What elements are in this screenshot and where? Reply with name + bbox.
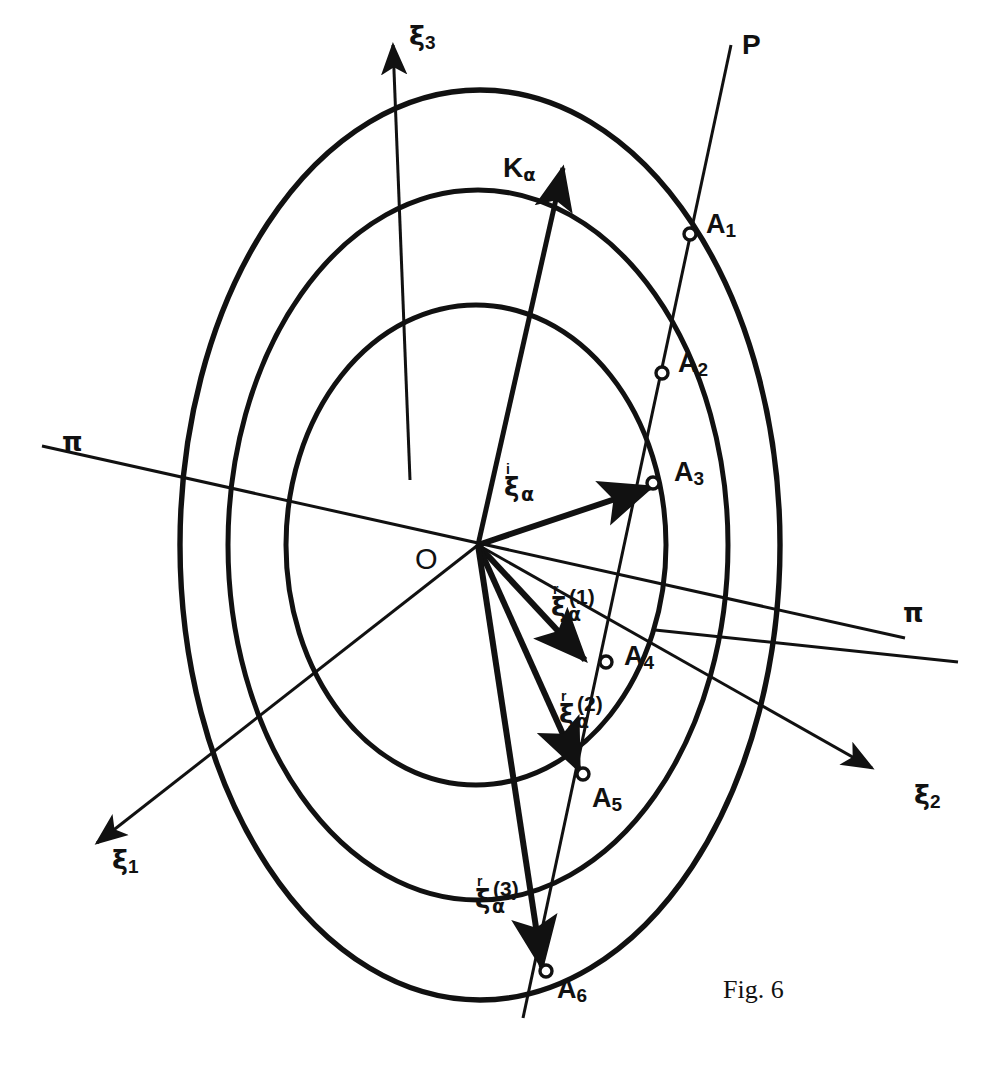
vector-label-K-alpha: Kα [503, 154, 536, 184]
point-label-A1: A1 [706, 211, 736, 240]
point-label-A4-letter: A [624, 641, 644, 671]
point-label-A4: A4 [624, 643, 654, 672]
marker-A5 [577, 768, 589, 780]
vector-label-reflected-2-index: (2) [577, 693, 603, 714]
ray-P-line [523, 45, 731, 1018]
plane-label-pi-right: π [903, 600, 924, 626]
point-label-A3: A3 [674, 459, 704, 488]
point-label-A4-sub: 4 [644, 652, 655, 673]
axis-xi2-line [478, 545, 872, 768]
figure-caption: Fig. 6 [723, 977, 784, 1003]
plane-label-pi-left: π [62, 429, 83, 455]
point-label-A1-letter: A [706, 209, 726, 239]
vector-label-incident-sub: α [521, 485, 534, 504]
vector-label-reflected-1-index: (1) [569, 586, 595, 607]
vector-label-incident: i ξ α [504, 465, 564, 515]
point-label-A5-letter: A [592, 783, 612, 813]
vector-label-K-symbol: K [503, 152, 523, 183]
vector-label-reflected-2-symbol: ξ [559, 701, 574, 727]
axis-label-xi3: ξ3 [409, 22, 436, 52]
point-label-A3-letter: A [674, 457, 694, 487]
origin-label: O [415, 545, 438, 574]
marker-A1 [684, 228, 696, 240]
axis-label-xi3-symbol: ξ [409, 20, 425, 51]
axis-label-xi3-sub: 3 [425, 32, 436, 53]
vector-label-reflected-2: r ξ α (2) [559, 692, 629, 742]
plane-label-pi-left-symbol: π [62, 427, 83, 457]
point-label-A6-letter: A [557, 974, 577, 1004]
point-label-A2-letter: A [678, 348, 698, 378]
figure-canvas: ξ3 P Kα A1 A2 A3 A4 A5 A6 π π ξ2 ξ1 [0, 0, 983, 1070]
axis-label-xi2-sub: 2 [930, 791, 941, 812]
point-label-A5-sub: 5 [612, 794, 623, 815]
axis-label-xi1-symbol: ξ [112, 844, 128, 875]
pi-right-line [655, 630, 958, 662]
axis-xi3-line [393, 45, 410, 480]
vector-label-reflected-1-symbol: ξ [551, 594, 566, 620]
marker-A4 [600, 656, 612, 668]
vector-label-incident-symbol: ξ [504, 474, 519, 500]
ray-label-P: P [742, 31, 761, 59]
vector-label-K-sub: α [523, 164, 535, 185]
point-label-A2-sub: 2 [698, 359, 709, 380]
axis-label-xi1-sub: 1 [128, 856, 139, 877]
point-label-A2: A2 [678, 350, 708, 379]
axis-label-xi2-symbol: ξ [914, 779, 930, 810]
axis-label-xi1: ξ1 [112, 846, 139, 876]
ray-label-P-text: P [742, 29, 761, 60]
vector-label-reflected-1: r ξ α (1) [551, 585, 621, 635]
marker-A6 [540, 965, 552, 977]
origin-label-text: O [415, 543, 438, 575]
axis-label-xi2: ξ2 [914, 781, 941, 811]
plane-label-pi-right-symbol: π [903, 598, 924, 628]
vector-label-reflected-3-symbol: ξ [475, 886, 490, 912]
point-label-A6-sub: 6 [577, 985, 588, 1006]
figure-caption-text: Fig. 6 [723, 975, 784, 1004]
marker-A3 [647, 477, 659, 489]
point-label-A5: A5 [592, 785, 622, 814]
point-label-A3-sub: 3 [694, 468, 705, 489]
point-label-A1-sub: 1 [726, 220, 737, 241]
marker-A2 [656, 367, 668, 379]
vector-label-reflected-3-index: (3) [493, 878, 519, 899]
point-label-A6: A6 [557, 976, 587, 1005]
vector-label-reflected-3: r ξ α (3) [475, 877, 545, 927]
